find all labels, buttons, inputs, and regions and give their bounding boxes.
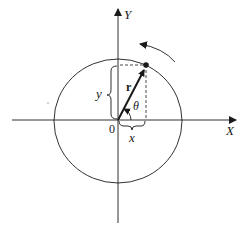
x-brace xyxy=(119,121,145,130)
vector-r-label: r xyxy=(126,81,131,93)
stray-dot xyxy=(47,102,49,104)
rotation-arrow xyxy=(140,44,175,62)
y-brace xyxy=(107,66,117,119)
origin-label: 0 xyxy=(109,123,115,135)
point-on-circle xyxy=(143,62,149,68)
y-component-label: y xyxy=(96,87,102,100)
angle-arc xyxy=(124,109,131,120)
angle-theta-label: θ xyxy=(133,100,139,112)
diagram-svg xyxy=(0,0,249,229)
radius-vector xyxy=(118,70,144,120)
x-component-label: x xyxy=(129,131,135,144)
y-axis-label: Y xyxy=(124,8,131,21)
x-axis-label: X xyxy=(226,124,234,137)
diagram-canvas: Y X 0 x y r θ xyxy=(0,0,249,229)
